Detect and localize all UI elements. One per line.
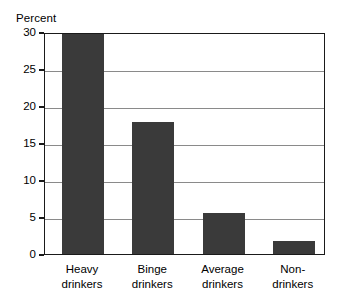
bar — [203, 213, 245, 254]
y-axis-tick-label: 0 — [30, 249, 36, 261]
x-axis-category-label: Average drinkers — [183, 262, 263, 291]
y-axis-title: Percent — [16, 12, 56, 24]
bar — [273, 241, 315, 254]
bar — [62, 34, 104, 254]
x-axis-category-label: Non- drinkers — [253, 262, 333, 291]
x-axis-category-label: Binge drinkers — [112, 262, 192, 291]
bar — [132, 122, 174, 254]
y-axis-tick-label: 15 — [23, 138, 36, 150]
bars-group — [45, 34, 324, 254]
y-axis-tick-label: 10 — [23, 175, 36, 187]
y-axis-tick-label: 5 — [30, 212, 36, 224]
x-axis-category-label: Heavy drinkers — [42, 262, 122, 291]
bar-chart-figure: Percent 051015202530 Heavy drinkersBinge… — [0, 0, 344, 305]
y-axis-tick-label: 20 — [23, 101, 36, 113]
y-axis-tick-label: 25 — [23, 64, 36, 76]
plot-area — [44, 33, 325, 255]
y-axis-tick-label: 30 — [23, 27, 36, 39]
